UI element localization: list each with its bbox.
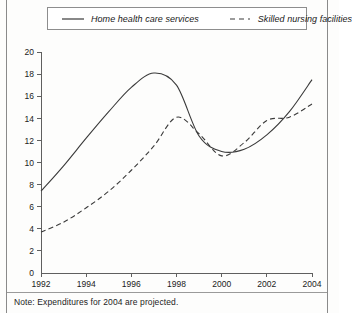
y-axis-tick-label: 2 xyxy=(29,246,34,256)
y-axis-tick-label: 8 xyxy=(29,180,34,190)
x-axis-tick-label: 1996 xyxy=(122,279,141,289)
chart-series-lines xyxy=(41,73,312,232)
y-axis-tick-label: 18 xyxy=(25,69,35,79)
y-axis-tick-label: 10 xyxy=(25,158,35,168)
y-axis-tick-label: 20 xyxy=(25,47,35,57)
x-axis-tick-label: 1998 xyxy=(167,279,186,289)
y-axis-tick-label: 6 xyxy=(29,202,34,212)
series-line-0 xyxy=(41,73,312,191)
y-axis-tick-label: 14 xyxy=(25,114,35,124)
x-axis: 1992199419961998200020022004 xyxy=(32,273,322,289)
x-axis-tick-label: 1994 xyxy=(77,279,96,289)
chart-plot-area: 02468101214161820 1992199419961998200020… xyxy=(0,0,339,290)
y-axis-tick-label: 16 xyxy=(25,91,35,101)
x-axis-tick-label: 1992 xyxy=(32,279,51,289)
chart-note: Note: Expenditures for 2004 are projecte… xyxy=(14,297,178,307)
y-axis-tick-label: 4 xyxy=(29,224,34,234)
y-axis-tick-label: 12 xyxy=(25,136,35,146)
series-line-1 xyxy=(41,104,312,232)
note-divider xyxy=(7,292,327,293)
y-axis-tick-label: 0 xyxy=(29,268,34,278)
x-axis-tick-label: 2002 xyxy=(257,279,276,289)
y-axis: 02468101214161820 xyxy=(25,47,41,278)
x-axis-tick-label: 2000 xyxy=(212,279,231,289)
x-axis-tick-label: 2004 xyxy=(303,279,322,289)
